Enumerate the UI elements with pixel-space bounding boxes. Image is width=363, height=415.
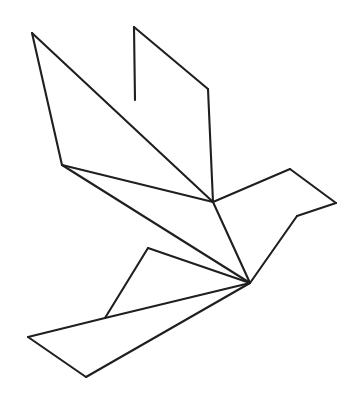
origami-dove-illustration: [0, 0, 363, 415]
artboard: [0, 0, 363, 415]
spike-vertical-edge-path: [134, 27, 135, 100]
canvas-background: [0, 0, 363, 415]
